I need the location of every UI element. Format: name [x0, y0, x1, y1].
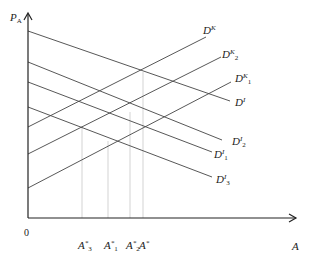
axes	[24, 13, 296, 222]
equilibrium-label: A*2	[126, 240, 140, 253]
curve-DI1	[28, 82, 212, 152]
equilibrium-label: A*3	[78, 240, 92, 253]
equilibrium-label: A*1	[104, 240, 118, 253]
curve-label-DI: DI	[235, 97, 245, 108]
curve-label-DI3: DI3	[216, 174, 230, 187]
curve-DK1	[28, 82, 231, 188]
y-axis-label: PA	[10, 12, 22, 25]
equilibrium-label: A*	[139, 240, 149, 251]
curve-DI2	[28, 62, 222, 140]
curve-label-DK2: DK2	[222, 49, 238, 62]
diagram-canvas	[0, 0, 316, 261]
curve-DK	[28, 37, 206, 127]
x-axis-label: A	[292, 241, 299, 252]
curve-label-DI2: DI2	[232, 136, 246, 149]
curve-DI	[28, 31, 230, 101]
origin-label: 0	[24, 227, 29, 238]
curve-DK2	[28, 57, 221, 154]
curve-label-DK1: DK1	[235, 73, 251, 86]
curve-label-DI1: DI1	[214, 149, 228, 162]
curve-DI3	[28, 107, 212, 177]
curve-label-DK: DK	[203, 25, 216, 36]
